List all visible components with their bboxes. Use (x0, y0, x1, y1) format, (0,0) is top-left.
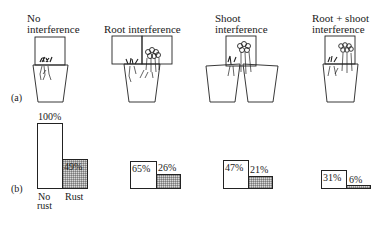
root-and-shoot-interference-pot-icon (323, 36, 358, 102)
bar-value: 26% (158, 163, 176, 173)
bar-value: 31% (323, 173, 341, 183)
bar-value: 47% (225, 163, 243, 173)
rust-label: Rust (65, 192, 83, 201)
root-interference-pot-icon (112, 36, 172, 102)
bar-no-rust (37, 123, 63, 189)
bar-value: 6% (349, 175, 362, 185)
bar-value: 21% (250, 165, 268, 175)
bar-value: 100% (38, 112, 61, 122)
no-rust-label-line2: rust (37, 201, 52, 210)
shoot-interference-pots-icon (206, 36, 278, 102)
bar-rust (346, 185, 371, 189)
bar-rust (248, 176, 273, 189)
bar-value: 49% (64, 162, 82, 172)
bar-rust (156, 174, 181, 189)
bar-value: 65% (132, 164, 150, 174)
no-interference-pot-icon (33, 37, 68, 102)
